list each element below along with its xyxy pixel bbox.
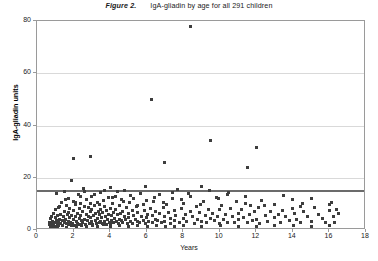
data-point: [231, 215, 234, 218]
data-point: [107, 196, 110, 199]
data-point: [288, 219, 291, 222]
plot-canvas: [37, 21, 364, 228]
data-point: [114, 208, 117, 211]
data-point: [99, 191, 102, 194]
data-point: [295, 218, 298, 221]
data-point: [282, 194, 285, 197]
data-point: [313, 206, 316, 209]
data-point: [173, 209, 176, 212]
data-point: [127, 225, 130, 228]
data-point: [173, 225, 176, 228]
data-point: [226, 193, 229, 196]
data-point: [63, 190, 66, 193]
data-point: [158, 193, 161, 196]
data-point: [180, 207, 183, 210]
x-tick-label-4: 4: [97, 232, 121, 239]
data-point: [150, 98, 153, 101]
data-point: [65, 204, 68, 207]
data-point: [98, 203, 101, 206]
data-point: [81, 210, 84, 213]
x-tick-label-16: 16: [316, 232, 340, 239]
data-point: [131, 222, 134, 225]
data-point: [284, 215, 287, 218]
data-point: [140, 215, 143, 218]
data-point: [125, 206, 128, 209]
data-point: [273, 203, 276, 206]
data-point: [224, 213, 227, 216]
data-point: [127, 216, 130, 219]
data-point: [317, 213, 320, 216]
data-point: [56, 214, 59, 217]
data-point: [171, 191, 174, 194]
data-point: [217, 197, 220, 200]
data-point: [328, 224, 331, 227]
data-point: [310, 225, 313, 228]
data-point: [110, 214, 113, 217]
data-point: [299, 221, 302, 224]
x-tick-label-2: 2: [61, 232, 85, 239]
data-point: [139, 192, 142, 195]
data-point: [292, 224, 295, 227]
data-point: [145, 216, 148, 219]
x-tick-label-0: 0: [24, 232, 48, 239]
data-point: [218, 208, 221, 211]
data-point: [145, 199, 148, 202]
gridline-y-60: [37, 73, 364, 74]
data-point: [65, 226, 68, 228]
data-point: [167, 211, 170, 214]
x-tick-14: [292, 229, 293, 232]
data-point: [93, 204, 96, 207]
data-point: [202, 200, 205, 203]
data-point: [244, 202, 247, 205]
data-point: [273, 224, 276, 227]
data-point: [335, 208, 338, 211]
data-point: [128, 201, 131, 204]
data-point: [129, 194, 132, 197]
data-point: [111, 202, 114, 205]
data-point: [306, 215, 309, 218]
data-point: [103, 189, 106, 192]
x-tick-label-10: 10: [207, 232, 231, 239]
x-tick-6: [146, 229, 147, 232]
data-point: [163, 161, 166, 164]
data-point: [244, 195, 247, 198]
data-point: [144, 185, 147, 188]
data-point: [324, 221, 327, 224]
data-point: [182, 202, 185, 205]
data-point: [164, 225, 167, 228]
data-point: [64, 198, 67, 201]
x-tick-2: [73, 229, 74, 232]
plot-area: [36, 20, 365, 229]
data-point: [273, 216, 276, 219]
data-point: [209, 139, 212, 142]
data-point: [233, 221, 236, 224]
x-tick-18: [365, 229, 366, 232]
data-point: [105, 209, 108, 212]
gridline-y-40: [37, 126, 364, 127]
data-point: [281, 209, 284, 212]
data-point: [198, 211, 201, 214]
data-point: [70, 214, 73, 217]
data-point: [191, 215, 194, 218]
data-point: [189, 195, 192, 198]
data-point: [109, 225, 112, 228]
data-point: [111, 196, 114, 199]
data-point: [246, 166, 249, 169]
data-point: [118, 204, 121, 207]
data-point: [74, 203, 77, 206]
data-point: [121, 210, 124, 213]
x-axis-title: Years: [0, 244, 378, 251]
data-point: [277, 213, 280, 216]
data-point: [136, 204, 139, 207]
data-point: [196, 218, 199, 221]
data-point: [237, 212, 240, 215]
data-point: [332, 215, 335, 218]
data-point: [205, 221, 208, 224]
data-point: [151, 221, 154, 224]
data-point: [193, 222, 196, 225]
data-point: [109, 186, 112, 189]
data-point: [189, 210, 192, 213]
data-point: [68, 207, 71, 210]
data-point: [136, 211, 139, 214]
data-point: [87, 206, 90, 209]
